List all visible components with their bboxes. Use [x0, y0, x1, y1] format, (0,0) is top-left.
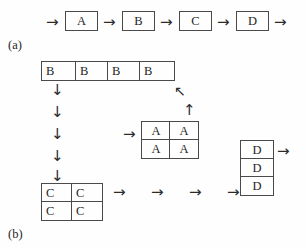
a-cell: A [141, 139, 171, 159]
arrow-right: → [189, 185, 202, 200]
b-cell: B [41, 61, 77, 81]
arrow-down: ↓ [51, 149, 64, 164]
a-cell: A [169, 139, 199, 159]
c-cell: C [71, 201, 103, 221]
d-cell-label: D [252, 162, 261, 175]
arrow-down: ↓ [51, 127, 64, 142]
c-cell: C [41, 201, 73, 221]
arrow-down: ↓ [51, 105, 64, 120]
c-cell-label: C [76, 205, 84, 218]
c-cell-label: C [46, 187, 54, 200]
d-cell: D [240, 176, 274, 196]
a-cell-label: A [151, 125, 160, 138]
panel-b-caption: (b) [8, 228, 23, 241]
arrow-right: → [113, 185, 126, 200]
d-cell-label: D [252, 180, 261, 193]
arrow-right-into-a-block: → [123, 127, 136, 142]
a-cell-label: A [151, 143, 160, 156]
c-cell-label: C [46, 205, 54, 218]
c-cell: C [71, 183, 103, 203]
arrow-down: ↓ [51, 83, 64, 98]
d-cell: D [240, 140, 274, 160]
arrow-right-out-of-d-column: → [277, 144, 290, 159]
b-cell: B [139, 61, 175, 81]
a-cell: A [141, 121, 171, 141]
b-cell-label: B [80, 65, 88, 78]
a-cell: A [169, 121, 199, 141]
b-cell-label: B [112, 65, 120, 78]
d-cell-label: D [252, 144, 261, 157]
c-cell-label: C [76, 187, 84, 200]
d-cell: D [240, 158, 274, 178]
figure-canvas: → A → B → C → D → (a) B B B [0, 0, 306, 248]
arrow-up-into-a-block: ↑ [183, 103, 196, 118]
c-cell: C [41, 183, 73, 203]
panel-b: B B B B ↓ ↓ ↓ ↓ ↓ ↖ ↑ → [0, 0, 306, 248]
b-cell: B [75, 61, 109, 81]
arrow-right: → [151, 185, 164, 200]
arrow-down: ↓ [51, 169, 64, 184]
arrow-up-left-diagonal: ↖ [174, 84, 186, 98]
b-cell: B [107, 61, 141, 81]
b-cell-label: B [144, 65, 152, 78]
a-cell-label: A [179, 125, 188, 138]
a-cell-label: A [179, 143, 188, 156]
b-cell-label: B [46, 65, 54, 78]
arrow-right: → [227, 185, 240, 200]
